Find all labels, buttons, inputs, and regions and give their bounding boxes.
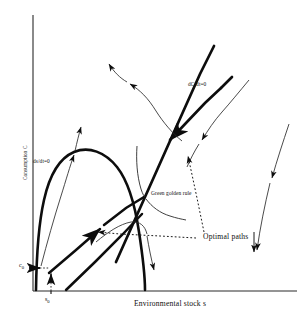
y-axis-label: Consumption C xyxy=(22,145,28,180)
trajectory-inbound-right-tail xyxy=(187,144,199,167)
trajectory-vertical-through-ggr xyxy=(137,146,145,197)
path-unstable-arm xyxy=(170,88,221,140)
trajectory-inbound-right xyxy=(202,80,249,140)
trajectory-ggr-outflow xyxy=(146,199,186,220)
path-unstable-arm-extension xyxy=(221,77,232,88)
trajectory-left-rising xyxy=(41,155,74,266)
label-ds-dt-zero: ds/dt=0 xyxy=(33,158,50,164)
x-axis-label: Environmental stock s xyxy=(134,299,206,308)
trajectory-northwest-tail xyxy=(109,64,127,82)
phase-diagram-figure: Consumption C Environmental stock s dC/d… xyxy=(0,0,307,325)
y-tick-label-c0: c0 xyxy=(19,262,24,270)
label-green-golden-rule: Green golden rule xyxy=(151,190,192,196)
curve-dc-dt-zero xyxy=(116,46,214,262)
x-tick-label-s0: s0 xyxy=(45,296,50,304)
trajectory-inner-hump-drop xyxy=(147,236,154,270)
label-dc-dt-zero: dC/dt=0 xyxy=(188,81,206,87)
label-optimal-paths: Optimal paths xyxy=(203,232,248,241)
trajectory-far-right-tail xyxy=(257,183,270,250)
trajectory-far-right xyxy=(272,124,289,178)
trajectory-left-rising-tail xyxy=(75,127,81,151)
path-optimal-upper xyxy=(49,229,100,273)
y-tick-label-c0-sub: 0 xyxy=(22,265,24,270)
x-tick-label-s0-sub: 0 xyxy=(47,299,49,304)
